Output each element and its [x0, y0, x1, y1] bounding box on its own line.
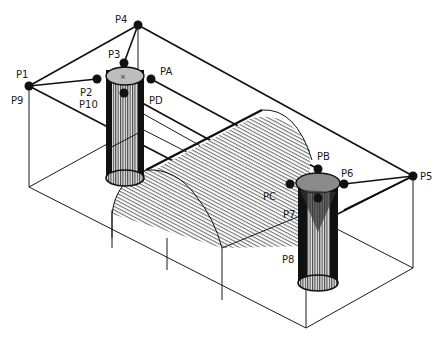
node-p4[interactable] [134, 21, 143, 30]
label-pd: PD [149, 95, 163, 106]
label-p2: P2 [80, 87, 92, 98]
label-p10: P10 [79, 99, 98, 110]
node-pc[interactable] [286, 180, 295, 189]
node-pd[interactable] [120, 89, 129, 98]
isometric-diagram: × P4 P1 P9 P3 P2 P10 PA PD P5 PB P6 [0, 0, 444, 345]
label-p1: P1 [16, 69, 28, 80]
label-pc: PC [263, 191, 276, 202]
node-p5[interactable] [409, 172, 418, 181]
cylinder-right [296, 173, 340, 291]
node-pa[interactable] [147, 75, 156, 84]
label-p8: P8 [282, 254, 294, 265]
label-p6: P6 [341, 168, 353, 179]
cylinder-left: × [106, 67, 144, 186]
node-p6[interactable] [340, 180, 349, 189]
label-p4: P4 [115, 14, 127, 25]
node-p2[interactable] [93, 75, 102, 84]
label-p7: P7 [283, 209, 295, 220]
node-p1[interactable] [25, 82, 34, 91]
node-p3[interactable] [120, 59, 129, 68]
label-pb: PB [317, 151, 330, 162]
label-p5: P5 [420, 171, 432, 182]
node-p7[interactable] [314, 194, 323, 203]
svg-text:×: × [120, 73, 126, 81]
label-p9: P9 [11, 95, 23, 106]
node-pb[interactable] [314, 165, 323, 174]
label-pa: PA [160, 66, 172, 77]
label-p3: P3 [108, 49, 120, 60]
